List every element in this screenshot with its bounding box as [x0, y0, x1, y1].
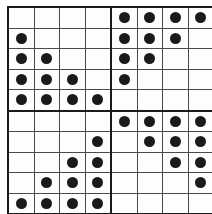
dot-grid-row [8, 173, 212, 194]
dot-cell-empty [85, 28, 111, 49]
filled-circle-icon [144, 12, 155, 23]
filled-circle-icon [92, 94, 103, 105]
dot-grid-row [8, 28, 212, 49]
filled-circle-icon [16, 94, 27, 105]
dot-cell-filled [111, 28, 137, 49]
filled-circle-icon [16, 53, 27, 64]
filled-circle-icon [67, 74, 78, 85]
dot-grid-row [8, 7, 212, 28]
dot-cell-empty [34, 7, 60, 28]
dot-cell-filled [85, 132, 111, 153]
dot-cell-filled [8, 49, 34, 70]
filled-circle-icon [41, 198, 52, 209]
dot-grid-row [8, 90, 212, 111]
dot-cell-empty [111, 193, 137, 214]
dot-cell-filled [34, 193, 60, 214]
dot-cell-empty [137, 69, 163, 90]
filled-circle-icon [92, 177, 103, 188]
dot-grid-row [8, 49, 212, 70]
dot-grid-row [8, 193, 212, 214]
dot-cell-filled [163, 28, 189, 49]
dot-cell-empty [163, 193, 189, 214]
dot-cell-filled [85, 90, 111, 111]
dot-cell-empty [85, 111, 111, 132]
dot-grid [7, 6, 212, 214]
filled-circle-icon [195, 136, 206, 147]
filled-circle-icon [16, 33, 27, 44]
dot-cell-empty [111, 90, 137, 111]
dot-cell-filled [111, 7, 137, 28]
dot-cell-empty [34, 152, 60, 173]
dot-cell-empty [60, 111, 86, 132]
dot-cell-filled [137, 7, 163, 28]
dot-cell-filled [137, 111, 163, 132]
filled-circle-icon [119, 53, 130, 64]
dot-cell-empty [34, 111, 60, 132]
filled-circle-icon [170, 12, 181, 23]
dot-cell-filled [8, 193, 34, 214]
dot-cell-filled [34, 69, 60, 90]
dot-cell-filled [34, 90, 60, 111]
dot-cell-empty [137, 173, 163, 194]
dot-cell-filled [137, 28, 163, 49]
filled-circle-icon [144, 33, 155, 44]
dot-cell-filled [60, 69, 86, 90]
dot-cell-filled [188, 111, 212, 132]
dot-cell-filled [188, 132, 212, 153]
filled-circle-icon [67, 198, 78, 209]
dot-cell-filled [60, 193, 86, 214]
dot-cell-empty [188, 28, 212, 49]
dot-cell-empty [8, 132, 34, 153]
filled-circle-icon [67, 177, 78, 188]
dot-cell-filled [34, 49, 60, 70]
filled-circle-icon [195, 12, 206, 23]
filled-circle-icon [144, 53, 155, 64]
filled-circle-icon [92, 157, 103, 168]
dot-cell-empty [60, 28, 86, 49]
filled-circle-icon [119, 12, 130, 23]
dot-cell-filled [163, 152, 189, 173]
dot-cell-empty [163, 69, 189, 90]
filled-circle-icon [16, 198, 27, 209]
filled-circle-icon [144, 136, 155, 147]
filled-circle-icon [41, 94, 52, 105]
dot-cell-empty [8, 173, 34, 194]
dot-cell-empty [111, 152, 137, 173]
dot-cell-empty [188, 69, 212, 90]
dot-cell-empty [137, 90, 163, 111]
filled-circle-icon [170, 116, 181, 127]
dot-cell-empty [188, 90, 212, 111]
filled-circle-icon [41, 177, 52, 188]
dot-cell-filled [188, 173, 212, 194]
dot-grid-body [8, 7, 212, 214]
filled-circle-icon [67, 157, 78, 168]
dot-cell-filled [111, 49, 137, 70]
filled-circle-icon [195, 157, 206, 168]
dot-cell-empty [8, 111, 34, 132]
dot-cell-empty [60, 49, 86, 70]
filled-circle-icon [170, 136, 181, 147]
dot-cell-filled [34, 173, 60, 194]
filled-circle-icon [119, 74, 130, 85]
filled-circle-icon [67, 94, 78, 105]
dot-cell-filled [8, 28, 34, 49]
dot-grid-row [8, 152, 212, 173]
dot-cell-empty [163, 90, 189, 111]
dot-grid-row [8, 132, 212, 153]
dot-cell-filled [85, 152, 111, 173]
filled-circle-icon [195, 116, 206, 127]
dot-cell-empty [111, 173, 137, 194]
dot-cell-filled [163, 7, 189, 28]
dot-cell-filled [8, 69, 34, 90]
filled-circle-icon [119, 116, 130, 127]
dot-cell-empty [60, 132, 86, 153]
dot-cell-filled [137, 49, 163, 70]
filled-circle-icon [119, 33, 130, 44]
filled-circle-icon [170, 157, 181, 168]
dot-cell-filled [85, 173, 111, 194]
dot-grid-container [7, 6, 203, 201]
dot-cell-empty [188, 49, 212, 70]
dot-grid-row [8, 111, 212, 132]
dot-cell-empty [137, 152, 163, 173]
dot-cell-filled [188, 152, 212, 173]
